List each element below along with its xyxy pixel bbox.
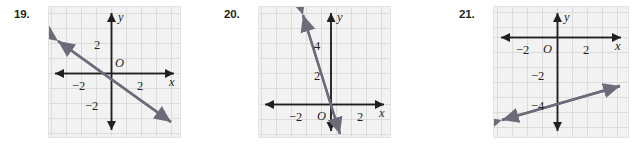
x-axis-label-20: x bbox=[378, 106, 385, 120]
x-tick-neg2-21: −2 bbox=[516, 43, 529, 57]
y-axis-label-20: y bbox=[335, 10, 343, 24]
coordinate-plane-21: y x O −2 2 −2 −4 bbox=[494, 7, 628, 137]
problem-19-graph: y x O −2 2 2 −2 bbox=[48, 6, 181, 138]
origin-label-20: O bbox=[317, 109, 326, 123]
x-tick-neg2-19: −2 bbox=[72, 79, 85, 93]
coordinate-plane-20: y x O −2 2 4 2 bbox=[259, 7, 390, 137]
x-axis-label-21: x bbox=[614, 39, 621, 53]
worksheet-page: 19. bbox=[0, 0, 640, 146]
x-axis-label-19: x bbox=[168, 75, 175, 89]
problem-21-number: 21. bbox=[459, 8, 474, 20]
y-tick-neg2-19: −2 bbox=[85, 99, 98, 113]
origin-label-19: O bbox=[115, 56, 124, 70]
y-tick-4-20: 4 bbox=[314, 39, 321, 53]
y-tick-2-20: 2 bbox=[314, 69, 320, 83]
problem-20-number: 20. bbox=[224, 8, 239, 20]
x-tick-2-20: 2 bbox=[357, 110, 363, 124]
grid-lines-19 bbox=[49, 7, 180, 137]
x-tick-neg2-20: −2 bbox=[289, 110, 302, 124]
coordinate-plane-19: y x O −2 2 2 −2 bbox=[49, 7, 180, 137]
x-tick-2-21: 2 bbox=[583, 43, 589, 57]
y-tick-2-19: 2 bbox=[94, 38, 100, 52]
y-axis-label-21: y bbox=[562, 10, 570, 24]
y-tick-neg4-21: −4 bbox=[531, 99, 545, 113]
origin-label-21: O bbox=[543, 42, 552, 56]
x-tick-2-19: 2 bbox=[137, 79, 143, 93]
problem-19-number: 19. bbox=[14, 8, 29, 20]
y-axis-label-19: y bbox=[116, 10, 124, 24]
problem-21-graph: y x O −2 2 −2 −4 bbox=[493, 6, 629, 138]
problem-20-graph: y x O −2 2 4 2 bbox=[258, 6, 391, 138]
y-tick-neg2-21: −2 bbox=[531, 69, 544, 83]
